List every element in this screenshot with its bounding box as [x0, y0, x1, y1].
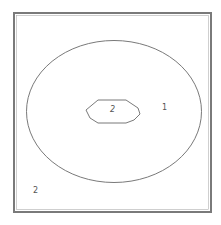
region-label-ring: 1 — [162, 103, 167, 112]
region-label-outer: 2 — [33, 186, 38, 195]
region-label-inner: 2 — [110, 105, 115, 114]
